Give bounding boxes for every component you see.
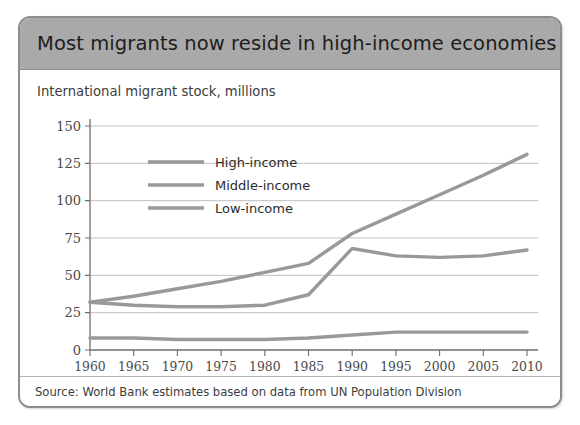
- line-chart-svg: 0255075100125150 19601965197019751980198…: [20, 18, 562, 408]
- y-axis-tick-label: 100: [56, 193, 81, 208]
- x-axis-tick-label: 1970: [162, 359, 194, 374]
- series-line-middle-income: [90, 248, 527, 306]
- x-axis-tick-label: 1995: [380, 359, 412, 374]
- x-axis-tick-label: 1965: [118, 359, 150, 374]
- y-axis-tick-label: 125: [56, 156, 81, 171]
- x-axis-labels-group: 1960196519701975198019851990199520002005…: [74, 359, 543, 374]
- chart-figure: Most migrants now reside in high-income …: [18, 16, 562, 408]
- x-axis-tick-label: 2010: [511, 359, 543, 374]
- chart-legend: High-incomeMiddle-incomeLow-income: [148, 155, 310, 216]
- y-axis-tick-label: 25: [64, 305, 81, 320]
- x-axis-tick-label: 1960: [74, 359, 106, 374]
- legend-label-0: High-income: [215, 155, 297, 170]
- source-note: Source: World Bank estimates based on da…: [20, 385, 462, 399]
- x-axis-tick-label: 2000: [424, 359, 456, 374]
- x-axis-tick-label: 2005: [468, 359, 500, 374]
- series-line-low-income: [90, 332, 527, 339]
- x-axis-tick-label: 1980: [249, 359, 281, 374]
- legend-label-1: Middle-income: [215, 178, 310, 193]
- legend-label-2: Low-income: [215, 201, 293, 216]
- y-axis-tick-label: 150: [56, 119, 81, 134]
- y-axis-ticks-group: [85, 126, 90, 350]
- x-axis-ticks-group: [90, 350, 527, 356]
- chart-footer-band: Source: World Bank estimates based on da…: [20, 376, 560, 406]
- y-axis-tick-label: 0: [73, 343, 81, 358]
- gridlines-group: [90, 126, 538, 313]
- x-axis-tick-label: 1985: [293, 359, 325, 374]
- axis-lines-group: [90, 119, 538, 350]
- y-axis-tick-label: 75: [64, 231, 81, 246]
- y-axis-labels-group: 0255075100125150: [56, 119, 81, 358]
- plot-area: 0255075100125150 19601965197019751980198…: [20, 18, 562, 408]
- x-axis-tick-label: 1990: [336, 359, 368, 374]
- x-axis-tick-label: 1975: [205, 359, 237, 374]
- y-axis-tick-label: 50: [64, 268, 81, 283]
